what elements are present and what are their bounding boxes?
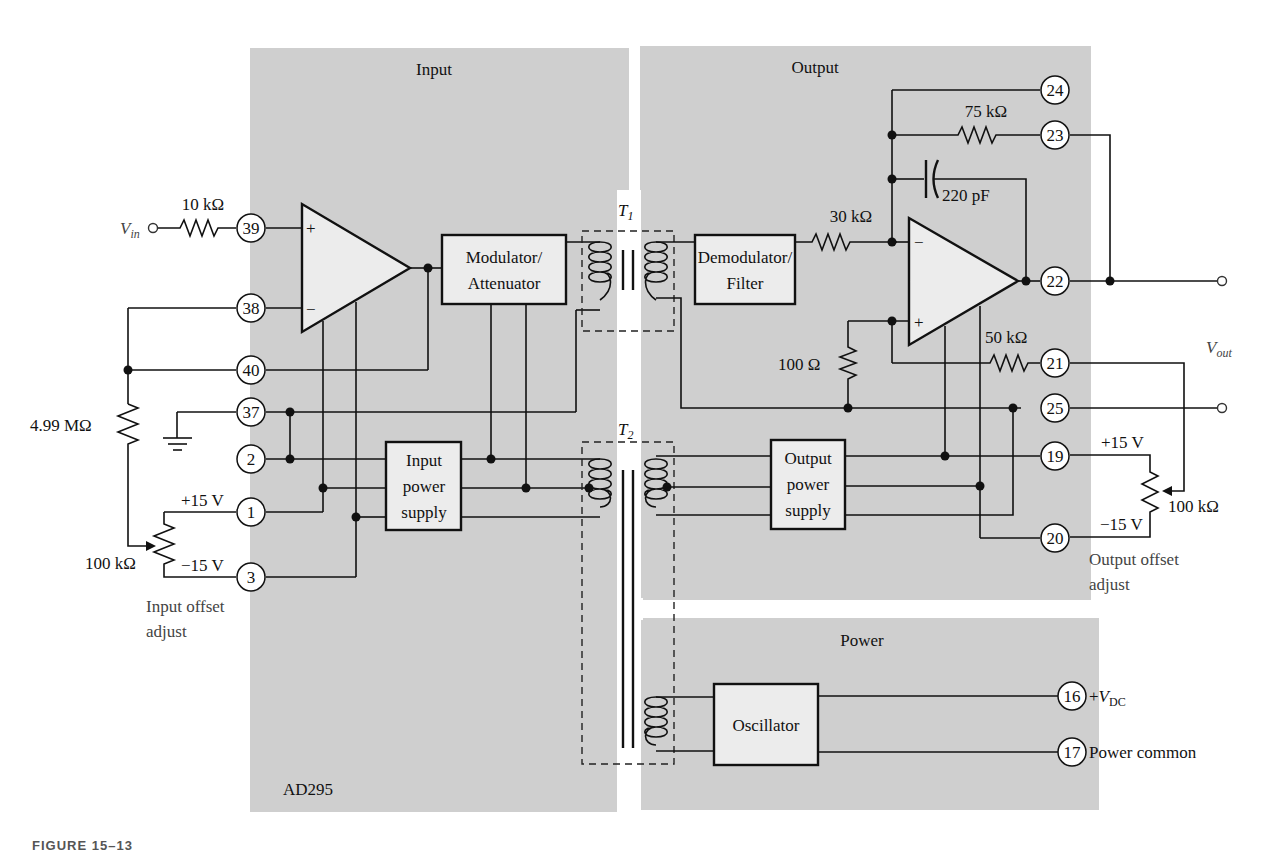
output-minus15-label: −15 V: [1100, 515, 1144, 534]
output-panel: [640, 46, 1091, 600]
vout-terminal: [1218, 277, 1227, 286]
svg-text:39: 39: [243, 219, 260, 238]
output-pot-label: 100 kΩ: [1168, 497, 1219, 516]
input-offset-label-2: adjust: [146, 622, 187, 641]
modulator-label-1: Modulator/: [466, 248, 543, 267]
input-panel: [250, 48, 629, 812]
svg-text:23: 23: [1047, 126, 1064, 145]
svg-text:19: 19: [1047, 447, 1064, 466]
output-common-terminal: [1218, 404, 1227, 413]
pin-21: 21: [1041, 349, 1069, 377]
output-offset-label-2: adjust: [1089, 575, 1130, 594]
output-amp-minus: −: [914, 233, 924, 252]
svg-text:3: 3: [247, 568, 256, 587]
resistor-10k: [158, 220, 236, 236]
power-panel-title: Power: [840, 631, 884, 650]
chip-label: AD295: [283, 780, 333, 799]
svg-text:1: 1: [247, 503, 256, 522]
output-power-label-2: power: [787, 475, 830, 494]
svg-text:22: 22: [1047, 272, 1064, 291]
pin-38: 38: [237, 294, 265, 322]
svg-text:17: 17: [1064, 743, 1082, 762]
pin-1: 1: [237, 498, 265, 526]
svg-text:25: 25: [1047, 399, 1064, 418]
output-amp-plus: +: [914, 313, 924, 332]
input-power-label-2: power: [403, 477, 446, 496]
pin-20: 20: [1041, 524, 1069, 552]
pin-37: 37: [237, 398, 265, 426]
vdc-label: +VDC: [1089, 687, 1126, 709]
resistor-75k-label: 75 kΩ: [965, 102, 1007, 121]
resistor-100ohm-label: 100 Ω: [778, 355, 820, 374]
resistor-4.99M: [118, 404, 146, 546]
demodulator-label-1: Demodulator/: [698, 248, 793, 267]
svg-text:16: 16: [1064, 687, 1081, 706]
output-panel-title: Output: [791, 58, 839, 77]
input-minus15-label: −15 V: [181, 556, 225, 575]
resistor-30k-label: 30 kΩ: [830, 207, 872, 226]
svg-text:40: 40: [243, 361, 260, 380]
power-common-label: Power common: [1089, 743, 1197, 762]
oscillator-label: Oscillator: [732, 716, 799, 735]
svg-text:38: 38: [243, 299, 260, 318]
pin-24: 24: [1041, 76, 1069, 104]
input-panel-title: Input: [416, 60, 452, 79]
input-offset-label-1: Input offset: [146, 597, 225, 616]
figure-caption: FIGURE 15–13: [32, 838, 133, 853]
pin-22: 22: [1041, 267, 1069, 295]
svg-text:21: 21: [1047, 354, 1064, 373]
input-plus15-label: +15 V: [181, 491, 225, 510]
pin-25: 25: [1041, 394, 1069, 422]
modulator-label-2: Attenuator: [468, 274, 541, 293]
input-amp-minus: −: [306, 300, 316, 319]
demodulator-filter-block: [695, 235, 795, 304]
demodulator-label-2: Filter: [727, 274, 764, 293]
resistor-4.99M-label: 4.99 MΩ: [30, 416, 92, 435]
modulator-attenuator-block: [442, 235, 566, 304]
vout-label: Vout: [1206, 338, 1232, 360]
input-power-label-3: supply: [401, 503, 447, 522]
svg-text:20: 20: [1047, 529, 1064, 548]
svg-text:37: 37: [243, 403, 261, 422]
pin-40: 40: [237, 356, 265, 384]
output-offset-label-1: Output offset: [1089, 550, 1179, 569]
output-power-label-3: supply: [785, 501, 831, 520]
vin-terminal: [149, 224, 158, 233]
pin-23: 23: [1041, 121, 1069, 149]
pin-3: 3: [237, 563, 265, 591]
vin-label: Vin: [120, 219, 140, 241]
resistor-50k-label: 50 kΩ: [985, 328, 1027, 347]
output-power-label-1: Output: [784, 449, 832, 468]
output-plus15-label: +15 V: [1101, 433, 1145, 452]
resistor-10k-label: 10 kΩ: [182, 195, 224, 214]
pin-19: 19: [1041, 442, 1069, 470]
input-pot-label: 100 kΩ: [85, 554, 136, 573]
pin-39: 39: [237, 214, 265, 242]
svg-text:2: 2: [247, 450, 256, 469]
pin-17: 17: [1058, 738, 1086, 766]
capacitor-220pF-label: 220 pF: [942, 186, 990, 205]
pin-16: 16: [1058, 682, 1086, 710]
pin-2: 2: [237, 445, 265, 473]
svg-text:24: 24: [1047, 81, 1065, 100]
input-amp-plus: +: [306, 219, 316, 238]
input-power-label-1: Input: [406, 451, 442, 470]
